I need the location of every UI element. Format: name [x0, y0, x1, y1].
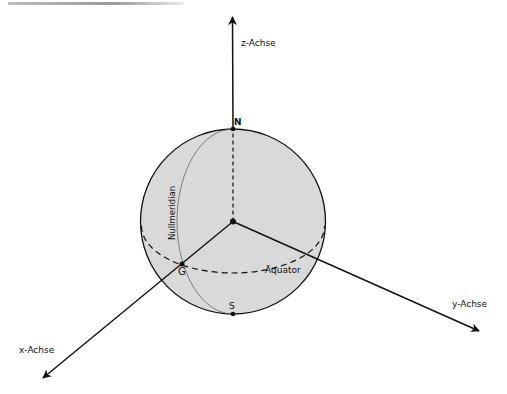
greenwich-label: G: [178, 267, 186, 277]
center-point: [230, 219, 236, 225]
equator-label: Äquator: [265, 266, 301, 275]
diagram-graphics: [0, 0, 507, 394]
y-axis-label: y-Achse: [452, 300, 487, 309]
north-pole-point: [231, 127, 236, 132]
meridian-label: Nullmeridian: [168, 186, 177, 240]
south-pole-label: S: [229, 302, 235, 311]
z-axis-label: z-Achse: [241, 39, 276, 48]
x-axis-label: x-Achse: [19, 346, 54, 355]
z-axis: [233, 17, 234, 129]
north-pole-label: N: [234, 118, 242, 127]
south-pole-point: [231, 312, 236, 317]
sphere-diagram: z-Achse x-Achse y-Achse N S G Nullmeridi…: [0, 0, 507, 394]
